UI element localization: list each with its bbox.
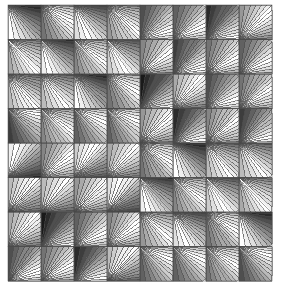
ray-fan-tile bbox=[41, 5, 74, 40]
ray-fan-tile bbox=[206, 74, 239, 109]
ray-fan-tiling-svg bbox=[0, 0, 285, 295]
ray-fan-tile bbox=[206, 212, 239, 247]
ray-fan-tile bbox=[8, 5, 41, 40]
ray-fan-tile bbox=[173, 178, 206, 213]
ray-fan-tile bbox=[173, 212, 206, 247]
ray-fan-tile bbox=[107, 5, 140, 40]
ray-fan-tile bbox=[107, 143, 140, 178]
ray-fan-tile bbox=[206, 178, 239, 213]
ray-fan-tile bbox=[8, 178, 41, 213]
ray-fan-tile bbox=[41, 247, 74, 282]
ray-fan-tile bbox=[107, 109, 140, 144]
ray-fan-tile bbox=[206, 143, 239, 178]
ray-fan-tile bbox=[173, 143, 206, 178]
ray-fan-tile bbox=[206, 5, 239, 40]
ray-fan-tile bbox=[239, 143, 272, 178]
ray-fan-tile bbox=[41, 143, 74, 178]
ray-fan-tile bbox=[173, 109, 206, 144]
tile-layer bbox=[8, 5, 272, 281]
ray-fan-tile bbox=[8, 247, 41, 282]
ray-fan-tile bbox=[107, 247, 140, 282]
ray-fan-tile bbox=[239, 40, 272, 75]
ray-fan-tile bbox=[140, 5, 173, 40]
artwork-canvas bbox=[0, 0, 285, 295]
ray-fan-tile bbox=[41, 212, 74, 247]
ray-fan-tile bbox=[41, 178, 74, 213]
ray-fan-tile bbox=[140, 74, 173, 109]
ray-fan-tile bbox=[206, 109, 239, 144]
ray-fan-tile bbox=[239, 5, 272, 40]
ray-fan-tile bbox=[140, 247, 173, 282]
ray-fan-tile bbox=[8, 143, 41, 178]
ray-fan-tile bbox=[140, 40, 173, 75]
ray-fan-tile bbox=[8, 109, 41, 144]
ray-fan-tile bbox=[41, 40, 74, 75]
ray-fan-tile bbox=[140, 143, 173, 178]
ray-fan-tile bbox=[74, 143, 107, 178]
ray-fan-tile bbox=[107, 212, 140, 247]
ray-fan-tile bbox=[206, 247, 239, 282]
ray-fan-tile bbox=[239, 247, 272, 282]
ray-fan-tile bbox=[206, 40, 239, 75]
ray-fan-tile bbox=[74, 109, 107, 144]
ray-fan-tile bbox=[41, 74, 74, 109]
ray-fan-tile bbox=[107, 74, 140, 109]
ray-fan-tile bbox=[239, 212, 272, 247]
ray-fan-tile bbox=[8, 212, 41, 247]
ray-fan-tile bbox=[74, 178, 107, 213]
ray-fan-tile bbox=[140, 109, 173, 144]
ray-fan-tile bbox=[173, 247, 206, 282]
ray-fan-tile bbox=[74, 5, 107, 40]
ray-fan-tile bbox=[107, 178, 140, 213]
ray-fan-tile bbox=[140, 178, 173, 213]
ray-fan-tile bbox=[41, 109, 74, 144]
ray-fan-tile bbox=[173, 74, 206, 109]
ray-fan-tile bbox=[8, 74, 41, 109]
ray-fan-tile bbox=[239, 178, 272, 213]
ray-fan-tile bbox=[74, 40, 107, 75]
ray-fan-tile bbox=[74, 212, 107, 247]
ray-fan-tile bbox=[173, 40, 206, 75]
ray-fan-tile bbox=[74, 247, 107, 282]
ray-fan-tile bbox=[74, 74, 107, 109]
ray-fan-tile bbox=[239, 109, 272, 144]
ray-fan-tile bbox=[107, 40, 140, 75]
ray-fan-tile bbox=[173, 5, 206, 40]
ray-fan-tile bbox=[8, 40, 41, 75]
ray-fan-tile bbox=[239, 74, 272, 109]
ray-fan-tile bbox=[140, 212, 173, 247]
